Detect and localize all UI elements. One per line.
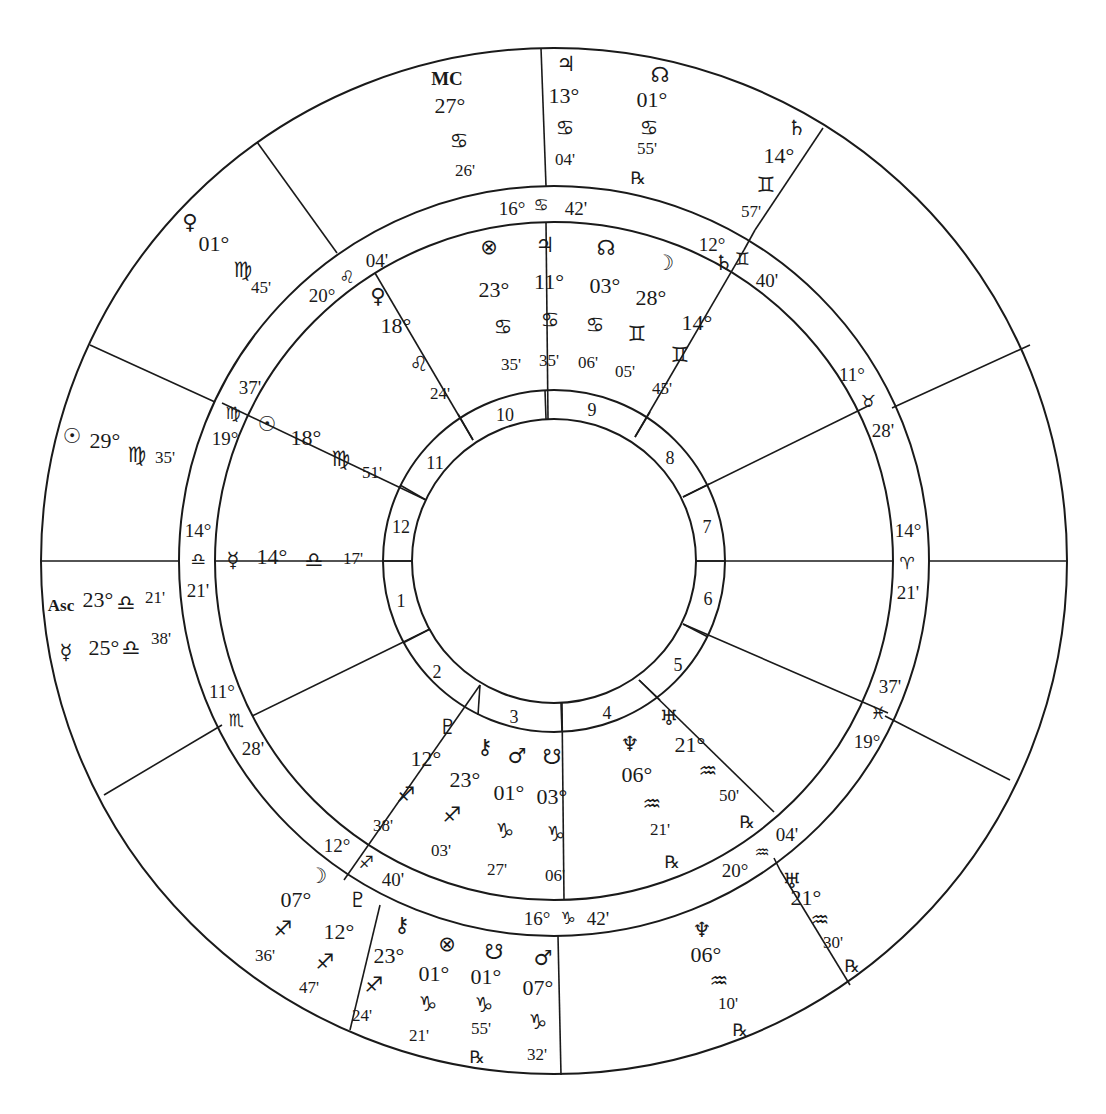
- cusp-6-deg: 19°: [854, 732, 881, 751]
- inner-pluto-deg: 12°: [411, 748, 442, 770]
- cusp-8-sign: ♉: [860, 393, 875, 410]
- cusp-asc-min: 21': [187, 581, 209, 600]
- cusp-11-deg: 20°: [309, 286, 336, 305]
- outer-south-node-deg: 01°: [471, 966, 502, 988]
- inner-south-node-icon: ☋: [543, 747, 562, 768]
- outer-mercury-sign: ♎: [122, 638, 141, 659]
- outer-south-node-retro-icon: ℞: [469, 1049, 484, 1066]
- outer-saturn-deg: 14°: [764, 145, 795, 167]
- inner-north-node-deg: 03°: [590, 275, 621, 297]
- outer-saturn-min: 57': [741, 203, 761, 220]
- outer-mercury-icon: ☿: [60, 642, 73, 663]
- inner-mars-min: 27': [487, 861, 507, 878]
- inner-chiron-sign: ♐: [443, 805, 462, 826]
- outer-moon-min: 36': [255, 947, 275, 964]
- outer-uranus-retro-icon: ℞: [844, 958, 859, 975]
- inner-moon-min: 05': [615, 363, 635, 380]
- inner-part-of-fortune-icon: ⊗: [480, 237, 498, 258]
- outer-uranus-min: 30': [823, 934, 843, 951]
- inner-jupiter-min: 35': [539, 352, 559, 369]
- inner-uranus-sign: ♒: [699, 761, 718, 782]
- cusp-9-sign: ♊: [734, 251, 749, 268]
- inner-saturn-sign: ♊: [671, 345, 690, 366]
- cusp-ic-sign: ♑: [560, 910, 575, 927]
- house-number-8: 8: [666, 449, 675, 467]
- outer-neptune-min: 10': [718, 995, 738, 1012]
- outer-uranus-sign: ♒: [811, 910, 830, 931]
- outer-mars-sign: ♑: [529, 1012, 548, 1033]
- outer-pluto-sign: ♐: [316, 952, 335, 973]
- house-number-1: 1: [397, 592, 406, 610]
- outer-asc-min: 21': [145, 589, 165, 606]
- cusp-3-sign: ♐: [358, 854, 373, 871]
- inner-part-of-fortune-sign: ♋: [494, 317, 513, 338]
- house-number-10: 10: [496, 406, 514, 424]
- inner-chiron-min: 03': [431, 842, 451, 859]
- inner-pluto-min: 38': [373, 817, 393, 834]
- cusp-8-deg: 11°: [839, 365, 865, 384]
- inner-mars-icon: ♂: [508, 746, 527, 767]
- outer-north-node-retro-icon: ℞: [630, 170, 645, 187]
- outer-moon-deg: 07°: [281, 889, 312, 911]
- outer-mars-deg: 07°: [523, 977, 554, 999]
- cusp-8-min: 28': [872, 421, 894, 440]
- inner-north-node-min: 06': [578, 354, 598, 371]
- outer-north-node-deg: 01°: [637, 89, 668, 111]
- outer-part-of-fortune-min: 21': [409, 1027, 429, 1044]
- outer-sun-sign: ♍: [128, 445, 147, 466]
- band-ticks: [744, 230, 780, 870]
- cusp-11-min: 04': [366, 251, 388, 270]
- inner-saturn-deg: 14°: [682, 312, 713, 334]
- cusp-5-min: 04': [776, 825, 798, 844]
- outer-asc-sign: ♎: [117, 593, 136, 614]
- cusp-6-sign: ♓: [870, 705, 885, 722]
- outer-neptune-retro-icon: ℞: [732, 1022, 747, 1039]
- outer-part-of-fortune-deg: 01°: [419, 963, 450, 985]
- chart-wheel: [0, 0, 1106, 1114]
- inner-mars-sign: ♑: [496, 821, 515, 842]
- outer-moon-sign: ♐: [274, 919, 293, 940]
- cusp-11-sign: ♌: [339, 269, 354, 286]
- house-inner-ring: [412, 419, 696, 703]
- inner-uranus-min: 50': [719, 787, 739, 804]
- inner-neptune-deg: 06°: [622, 764, 653, 786]
- inner-moon-deg: 28°: [636, 287, 667, 309]
- outer-mercury-min: 38': [151, 630, 171, 647]
- house-number-7: 7: [703, 518, 712, 536]
- cusp-5-sign: ♒: [754, 844, 769, 861]
- house-number-5: 5: [674, 656, 683, 674]
- inner-jupiter-icon: ♃: [536, 235, 555, 256]
- cusp-ic-min: 42': [587, 909, 609, 928]
- outer-north-node-min: 55': [637, 140, 657, 157]
- outer-south-node-sign: ♑: [475, 995, 494, 1016]
- cusp-2-min: 28': [242, 739, 264, 758]
- outer-mc-deg: 27°: [435, 95, 466, 117]
- inner-part-of-fortune-min: 35': [501, 356, 521, 373]
- outer-jupiter-min: 04': [555, 151, 575, 168]
- inner-north-node-icon: ☊: [597, 238, 616, 259]
- inner-mercury-sign: ♎: [305, 550, 324, 571]
- outer-sun-min: 35': [155, 449, 175, 466]
- outer-mercury-deg: 25°: [89, 637, 120, 659]
- cusp-asc-sign: ♎: [190, 551, 205, 568]
- outer-moon-icon: ☽: [309, 866, 328, 887]
- inner-chiron-deg: 23°: [450, 769, 481, 791]
- outer-pluto-deg: 12°: [324, 921, 355, 943]
- outer-part-of-fortune-sign: ♑: [419, 994, 438, 1015]
- cusp-dsc-deg: 14°: [895, 521, 922, 540]
- inner-south-node-sign: ♑: [547, 824, 566, 845]
- outer-jupiter-icon: ♃: [557, 54, 576, 75]
- outer-mc-min: 26': [455, 162, 475, 179]
- inner-neptune-min: 21': [650, 821, 670, 838]
- inner-saturn-min: 45': [652, 380, 672, 397]
- cusp-12-deg: 19°: [212, 429, 239, 448]
- cusp-12-sign: ♍: [225, 405, 240, 422]
- outer-sun-deg: 29°: [90, 430, 121, 452]
- inner-neptune-retro-icon: ℞: [664, 854, 679, 871]
- inner-venus-deg: 18°: [381, 315, 412, 337]
- inner-south-node-min: 06': [545, 867, 565, 884]
- inner-sun-deg: 18°: [291, 427, 322, 449]
- inner-venus-min: 24': [430, 385, 450, 402]
- outer-north-node-sign: ♋: [640, 118, 659, 139]
- cusp-5-deg: 20°: [722, 861, 749, 880]
